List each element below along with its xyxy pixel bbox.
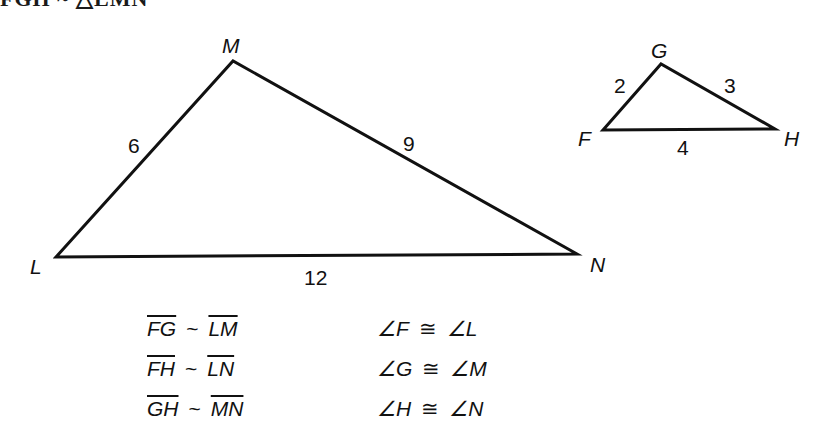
angle-l: ∠L <box>447 317 478 340</box>
vertex-label-g: G <box>651 40 667 61</box>
vertex-label-n: N <box>590 254 605 275</box>
similar-symbol: ~ <box>176 317 208 340</box>
segment-fh: FH <box>147 357 175 380</box>
angle-relation: ∠F≅∠L <box>377 318 478 339</box>
side-label-ln: 12 <box>304 267 327 288</box>
segment-ln: LN <box>207 357 234 380</box>
segment-gh: GH <box>147 397 179 420</box>
congruent-symbol: ≅ <box>412 357 450 380</box>
similar-symbol: ~ <box>175 357 207 380</box>
angle-h: ∠H <box>377 397 411 420</box>
side-relation: GH~MN <box>147 398 243 419</box>
angle-m: ∠M <box>450 357 487 380</box>
vertex-label-l: L <box>30 256 42 277</box>
side-relation: FG~LM <box>147 318 238 339</box>
angle-n: ∠N <box>449 397 483 420</box>
side-label-fg: 2 <box>614 75 626 96</box>
angle-relation: ∠H≅∠N <box>377 398 483 419</box>
vertex-label-f: F <box>578 128 591 149</box>
side-label-gh: 3 <box>724 75 736 96</box>
side-label-fh: 4 <box>677 137 689 158</box>
triangle-fgh <box>603 64 775 130</box>
segment-mn: MN <box>211 397 244 420</box>
congruent-symbol: ≅ <box>411 397 449 420</box>
angle-g: ∠G <box>377 357 412 380</box>
segment-lm: LM <box>208 317 237 340</box>
congruent-symbol: ≅ <box>409 317 447 340</box>
vertex-label-h: H <box>784 128 799 149</box>
angle-f: ∠F <box>377 317 409 340</box>
similar-symbol: ~ <box>179 397 211 420</box>
triangle-lmn <box>56 61 577 257</box>
side-relation: FH~LN <box>147 358 234 379</box>
vertex-label-m: M <box>222 35 240 56</box>
side-label-lm: 6 <box>128 135 140 156</box>
angle-relation: ∠G≅∠M <box>377 358 487 379</box>
side-label-mn: 9 <box>403 133 415 154</box>
segment-fg: FG <box>147 317 176 340</box>
